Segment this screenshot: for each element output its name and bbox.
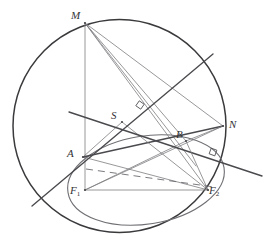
point-m: [84, 22, 86, 24]
segments-layer: [32, 23, 262, 206]
label-m: M: [71, 10, 80, 21]
chord-m-to-b: [85, 23, 186, 141]
point-n: [222, 125, 224, 127]
chord-m-to-f2: [85, 23, 208, 190]
point-f1: [84, 189, 86, 191]
point-s: [121, 121, 123, 123]
chord-m-to-n: [85, 23, 223, 126]
label-n: N: [229, 119, 236, 130]
label-b: B: [176, 129, 183, 140]
label-f1-subscript: 1: [77, 190, 81, 198]
segment-b-to-f2: [186, 141, 208, 190]
point-a: [82, 156, 84, 158]
point-b: [185, 140, 187, 142]
segment-a-to-n: [83, 126, 223, 157]
label-f1: F1: [70, 185, 80, 196]
circle-layer: [13, 20, 226, 233]
label-f2-subscript: 2: [216, 190, 220, 198]
label-a: A: [67, 148, 74, 159]
geometry-figure: MSNBAF1F2: [0, 0, 274, 249]
label-s: S: [111, 110, 117, 121]
label-f2: F2: [209, 185, 219, 196]
circumcircle: [13, 20, 226, 233]
